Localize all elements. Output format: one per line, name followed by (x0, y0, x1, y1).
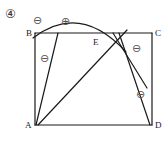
sign-left-inner-minus-icon: ⊖ (40, 53, 49, 64)
label-point-a: A (25, 121, 32, 130)
line-a-to-upper-right (38, 30, 127, 125)
label-point-b: B (26, 29, 32, 38)
sign-top-middle-plus-icon: ⊕ (61, 16, 70, 27)
geometry-figure: ④ B C A D E ⊖ ⊕ ⊖ ⊖ ⊖ (0, 0, 168, 142)
line-a-to-top-edge (36, 33, 58, 125)
sign-right-lower-minus-icon: ⊖ (136, 89, 145, 100)
label-point-c: C (155, 29, 161, 38)
parabola-curve (33, 23, 126, 52)
line-crossing-to-right-side (113, 33, 147, 88)
item-number: ④ (5, 8, 16, 20)
label-point-d: D (155, 121, 162, 130)
sign-right-upper-minus-icon: ⊖ (132, 43, 141, 54)
sign-top-left-minus-icon: ⊖ (33, 15, 42, 26)
label-point-e: E (93, 38, 99, 47)
